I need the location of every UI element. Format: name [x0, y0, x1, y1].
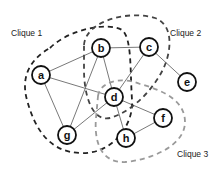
node-a: a — [32, 66, 50, 84]
node-h-label: h — [123, 132, 130, 144]
node-h: h — [117, 129, 135, 147]
clique-3-label: Clique 3 — [177, 149, 208, 159]
node-d-label: d — [111, 91, 118, 103]
clique-1-label: Clique 1 — [11, 28, 42, 38]
node-e-label: e — [184, 76, 190, 88]
node-f: f — [154, 109, 172, 127]
node-d: d — [105, 88, 123, 106]
clique-graph-diagram: Clique 1 Clique 2 Clique 3 a b c d e f g… — [0, 0, 223, 172]
node-g: g — [58, 126, 76, 144]
node-a-label: a — [38, 69, 45, 81]
node-f-label: f — [161, 112, 165, 124]
node-c: c — [140, 38, 158, 56]
node-e: e — [178, 73, 196, 91]
node-b-label: b — [98, 42, 105, 54]
node-g-label: g — [64, 129, 71, 141]
node-c-label: c — [146, 41, 152, 53]
node-b: b — [92, 39, 110, 57]
clique-2-outline — [84, 15, 170, 118]
clique-2-label: Clique 2 — [170, 28, 201, 38]
